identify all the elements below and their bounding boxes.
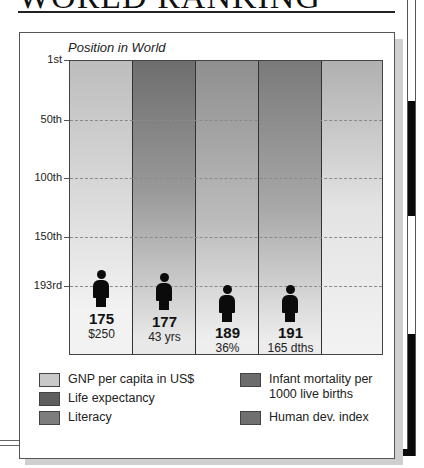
legend-item-literacy: Literacy (39, 410, 112, 425)
legend-label: Literacy (68, 410, 112, 425)
person-icon (282, 285, 298, 323)
plot-area: 175 $250 177 43 yrs 189 36% 191 165 dths (69, 60, 383, 355)
stat-value: 43 yrs (133, 330, 196, 344)
legend-swatch (240, 373, 261, 387)
y-tick-50th: 50th (22, 113, 62, 125)
y-axis-label: Position in World (68, 40, 166, 55)
page-title: WORLD RANKING (18, 0, 321, 16)
rank-value: 175 (70, 310, 133, 327)
legend-label: Infant mortality per 1000 live births (269, 372, 380, 402)
title-underline (18, 11, 395, 13)
rank-value: 177 (133, 313, 196, 330)
stat-value: 36% (196, 341, 259, 355)
rail-segment (408, 334, 415, 456)
y-tick-1st: 1st (22, 53, 62, 65)
legend-label: Life expectancy (68, 391, 155, 406)
stat-value: $250 (70, 327, 133, 341)
rank-value: 189 (196, 324, 259, 341)
connector-line (0, 440, 19, 446)
person-icon (219, 285, 235, 323)
legend-label: Human dev. index (269, 410, 369, 425)
legend-label: GNP per capita in US$ (68, 372, 194, 387)
legend-item-infant-mortality: Infant mortality per 1000 live births (240, 372, 380, 402)
gridline-100th (70, 178, 382, 179)
gridline-50th (70, 120, 382, 121)
legend-swatch (39, 373, 60, 387)
person-icon (93, 270, 109, 308)
rail-foot (403, 449, 415, 456)
y-tick-150th: 150th (22, 230, 62, 242)
column-human-dev-index (322, 61, 383, 354)
stat-value: 165 dths (259, 341, 322, 355)
legend-swatch (39, 392, 60, 406)
legend-swatch (39, 411, 60, 425)
gridline-150th (70, 237, 382, 238)
y-tick-193rd: 193rd (22, 279, 62, 291)
person-icon (156, 273, 172, 311)
rank-value: 191 (259, 324, 322, 341)
legend-item-gnp: GNP per capita in US$ (39, 372, 194, 387)
legend-swatch (240, 411, 261, 425)
side-rail (407, 0, 416, 456)
legend-item-human-dev-index: Human dev. index (240, 410, 369, 425)
y-tick-100th: 100th (22, 171, 62, 183)
rail-segment (408, 101, 415, 216)
legend-item-life-expectancy: Life expectancy (39, 391, 155, 406)
